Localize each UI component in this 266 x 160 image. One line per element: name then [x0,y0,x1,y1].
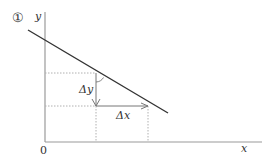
delta-y-label: Δy [78,83,94,96]
slope-diagram: ① y x 0 Δy Δx [0,0,266,160]
angle-arc-icon [96,78,104,83]
y-axis-label: y [34,10,42,23]
origin-label: 0 [40,144,47,157]
function-line [28,30,168,113]
figure-number-label: ① [12,10,24,25]
delta-x-label: Δx [115,109,131,122]
x-axis-label: x [241,142,248,155]
